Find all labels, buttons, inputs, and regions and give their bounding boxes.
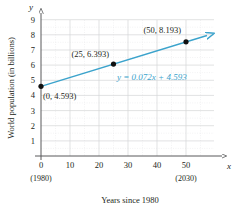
population-line-chart: y x 1 2 3 4 5 6 7 8 9 0 10 20 30 40 50 (… bbox=[0, 0, 235, 212]
chart-figure: y x 1 2 3 4 5 6 7 8 9 0 10 20 30 40 50 (… bbox=[0, 0, 235, 212]
y-axis-title: World population (in billions) bbox=[6, 37, 16, 139]
x-axis-title: Years since 1980 bbox=[101, 195, 159, 205]
data-point-label-0: (0, 4.593) bbox=[43, 91, 76, 101]
x-tick-20: 20 bbox=[95, 160, 104, 170]
y-axis-letter: y bbox=[28, 2, 33, 12]
equation-annotation: y = 0.072x + 4.593 bbox=[116, 72, 187, 82]
y-tick-2: 2 bbox=[31, 121, 35, 131]
y-tick-6: 6 bbox=[31, 60, 35, 70]
data-point-label-25: (25, 6.393) bbox=[71, 49, 109, 59]
y-tick-3: 3 bbox=[31, 106, 35, 116]
y-tick-1: 1 bbox=[31, 136, 35, 146]
x-tick-30: 30 bbox=[124, 160, 133, 170]
y-tick-9: 9 bbox=[31, 15, 35, 25]
x-sublabel-2030: (2030) bbox=[175, 174, 197, 183]
x-tick-50: 50 bbox=[182, 160, 191, 170]
x-tick-0: 0 bbox=[39, 160, 43, 170]
data-point-25 bbox=[111, 62, 116, 67]
y-tick-5: 5 bbox=[31, 75, 35, 85]
x-sublabel-1980: (1980) bbox=[30, 174, 52, 183]
x-tick-40: 40 bbox=[153, 160, 162, 170]
data-point-50 bbox=[183, 39, 188, 44]
data-point-label-50: (50, 8.193) bbox=[143, 25, 181, 35]
x-tick-10: 10 bbox=[66, 160, 75, 170]
data-point-0 bbox=[38, 84, 43, 89]
y-tick-7: 7 bbox=[31, 45, 35, 55]
x-axis-letter: x bbox=[226, 161, 231, 171]
y-tick-8: 8 bbox=[31, 30, 35, 40]
